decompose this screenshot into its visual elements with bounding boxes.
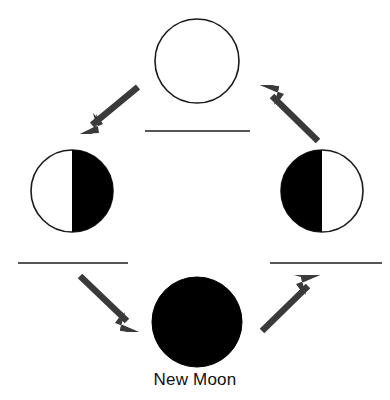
new-moon-label: New Moon	[0, 370, 390, 390]
first-quarter-moon-circle	[278, 148, 363, 234]
arrow-shaft	[272, 96, 318, 141]
moon-phase-diagram: New Moon	[0, 0, 390, 400]
full-moon-outline	[155, 19, 239, 103]
third-quarter-moon-circle	[31, 148, 116, 234]
new-moon-disc	[152, 277, 242, 367]
third-quarter-moon-shadow	[72, 148, 116, 234]
arrow-first-quarter-to-full	[260, 85, 318, 141]
arrow-third-quarter-to-new	[80, 276, 139, 332]
diagram-canvas	[0, 0, 390, 400]
first-quarter-moon-shadow	[278, 148, 322, 234]
full-moon-circle	[155, 19, 239, 103]
arrow-full-to-third-quarter	[80, 87, 138, 134]
new-moon-circle	[152, 277, 242, 367]
arrow-new-to-first-quarter	[262, 275, 320, 331]
arrow-shaft	[262, 286, 308, 331]
arrow-shaft	[80, 276, 127, 321]
